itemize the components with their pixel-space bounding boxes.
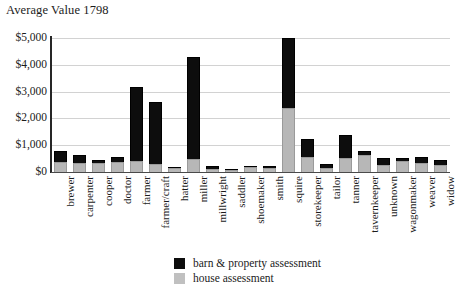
bar-stack[interactable]: [130, 38, 143, 172]
bar-stack[interactable]: [92, 38, 105, 172]
x-axis-tick-label-slot: weaver: [412, 174, 431, 254]
bar-segment-house: [396, 161, 409, 172]
x-axis-tick-label-slot: millwright: [203, 174, 222, 254]
bar-stack[interactable]: [54, 38, 67, 172]
bar-stack[interactable]: [187, 38, 200, 172]
bar-segment-house: [339, 158, 352, 172]
bar-segment-house: [149, 164, 162, 172]
legend-item[interactable]: barn & property assessment: [174, 256, 404, 270]
bar-segment-house: [434, 165, 447, 172]
legend-swatch-house: [174, 273, 185, 284]
bar-stack[interactable]: [225, 38, 238, 172]
x-axis-tick-label-slot: widow: [431, 174, 450, 254]
bar-segment-barn: [187, 57, 200, 160]
bar-stack[interactable]: [111, 38, 124, 172]
bar-segment-house: [92, 163, 105, 172]
x-axis-tick-label-slot: tavernkeeper: [355, 174, 374, 254]
bar-segment-house: [54, 162, 67, 172]
y-axis-tick-label: $0: [1, 165, 47, 177]
bar-segment-house: [320, 168, 333, 172]
bar-segment-house: [415, 163, 428, 172]
y-axis-tick-labels: $0$1,000$2,000$3,000$4,000$5,000: [0, 0, 47, 305]
x-axis-tick-label-slot: miller: [184, 174, 203, 254]
bar-stack[interactable]: [168, 38, 181, 172]
bar-segment-barn: [54, 151, 67, 162]
x-axis-tick-label-slot: farmer/craft: [146, 174, 165, 254]
bar-segment-house: [301, 157, 314, 172]
legend-item[interactable]: house assessment: [174, 271, 404, 285]
bar-segment-house: [206, 169, 219, 172]
bar-segment-barn: [301, 139, 314, 157]
y-axis-tick-label: $4,000: [1, 58, 47, 70]
bar-stack[interactable]: [377, 38, 390, 172]
bar-stack[interactable]: [149, 38, 162, 172]
bar-stack[interactable]: [282, 38, 295, 172]
bar-segment-barn: [339, 135, 352, 159]
bar-stack[interactable]: [358, 38, 371, 172]
bar-segment-house: [244, 167, 257, 172]
bar-stack[interactable]: [301, 38, 314, 172]
bar-segment-house: [187, 159, 200, 172]
x-axis-tick-label-slot: smith: [260, 174, 279, 254]
bar-segment-barn: [149, 102, 162, 164]
figure-caption: [60, 295, 452, 305]
bar-segment-house: [282, 108, 295, 172]
bar-segment-house: [358, 155, 371, 172]
bar-stack[interactable]: [396, 38, 409, 172]
bar-stack[interactable]: [339, 38, 352, 172]
bar-segment-house: [377, 165, 390, 172]
bar-segment-barn: [130, 87, 143, 160]
bar-segment-house: [225, 170, 238, 172]
y-axis-tick-label: $1,000: [1, 138, 47, 150]
x-axis-tick-label-slot: brewer: [51, 174, 70, 254]
y-axis-tick-label: $3,000: [1, 85, 47, 97]
bar-stack[interactable]: [320, 38, 333, 172]
bar-segment-house: [73, 163, 86, 172]
legend-label: house assessment: [193, 272, 274, 284]
legend-swatch-barn: [174, 258, 185, 269]
x-axis-tick-label-slot: wagonmaker: [393, 174, 412, 254]
bar-segment-barn: [377, 158, 390, 165]
bar-stack[interactable]: [415, 38, 428, 172]
x-axis-tick-label-slot: carpenter: [70, 174, 89, 254]
bar-stack[interactable]: [244, 38, 257, 172]
x-axis-line: [51, 172, 450, 173]
bar-stack[interactable]: [73, 38, 86, 172]
y-axis-tick-label: $2,000: [1, 111, 47, 123]
legend-label: barn & property assessment: [193, 257, 321, 269]
bar-segment-house: [130, 161, 143, 172]
x-axis-tick-label-slot: cooper: [89, 174, 108, 254]
chart-legend: barn & property assessmenthouse assessme…: [174, 256, 404, 286]
bar-stack[interactable]: [263, 38, 276, 172]
x-axis-tick-label-slot: squire: [279, 174, 298, 254]
bar-segment-barn: [282, 38, 295, 108]
x-axis-tick-label-slot: saddler: [222, 174, 241, 254]
x-axis-tick-label-slot: farmer: [127, 174, 146, 254]
bar-segment-house: [263, 168, 276, 172]
x-axis-tick-label-slot: hatter: [165, 174, 184, 254]
x-axis-tick-label: widow: [445, 176, 456, 206]
bar-stack[interactable]: [434, 38, 447, 172]
x-axis-tick-label-slot: tanner: [336, 174, 355, 254]
y-axis-tick-label: $5,000: [1, 31, 47, 43]
x-axis-tick-label-slot: unknown: [374, 174, 393, 254]
bar-segment-house: [111, 162, 124, 172]
bar-segment-house: [168, 168, 181, 172]
x-axis-tick-label-slot: tailor: [317, 174, 336, 254]
chart-figure: Average Value 1798 $0$1,000$2,000$3,000$…: [0, 0, 462, 305]
x-axis-tick-label-slot: doctor: [108, 174, 127, 254]
x-axis-tick-label-slot: shoemaker: [241, 174, 260, 254]
bar-stack[interactable]: [206, 38, 219, 172]
bar-series-group: [51, 38, 450, 172]
bar-segment-barn: [73, 155, 86, 163]
x-axis-tick-label-slot: storekeeper: [298, 174, 317, 254]
x-axis-tick-labels: brewercarpentercooperdoctorfarmerfarmer/…: [51, 174, 450, 254]
